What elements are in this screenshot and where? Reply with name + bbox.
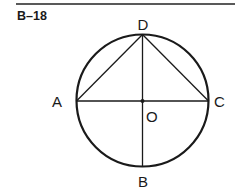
geometry-diagram: B–18 D A C O B [0, 0, 235, 190]
label-c: C [214, 93, 225, 110]
figure-label: B–18 [17, 9, 47, 23]
label-o: O [146, 108, 158, 125]
label-a: A [52, 93, 62, 110]
label-b: B [138, 173, 148, 190]
label-d: D [138, 16, 149, 33]
center-point [141, 99, 145, 103]
